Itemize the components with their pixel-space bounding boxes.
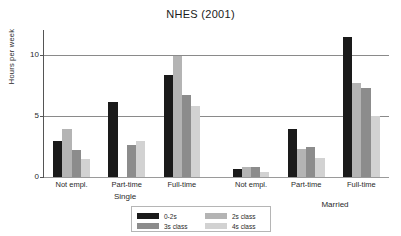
legend-swatch <box>205 223 227 229</box>
y-tick-mark-5 <box>40 116 44 117</box>
bar <box>352 83 361 177</box>
group-label-single: Single <box>90 192 160 201</box>
legend-entry[interactable]: 4s class <box>205 222 255 230</box>
legend-swatch <box>137 223 159 229</box>
bar <box>72 150 81 177</box>
legend-label: 3s class <box>164 223 187 230</box>
chart-title: NHES (2001) <box>0 8 401 20</box>
bar <box>164 75 173 177</box>
legend-entry[interactable]: 3s class <box>137 222 187 230</box>
plot-area <box>44 30 389 177</box>
gridline-y-5 <box>44 116 389 117</box>
bar <box>343 37 352 177</box>
bar <box>251 167 260 177</box>
plot-inner <box>44 30 389 177</box>
legend-label: 0-2s <box>164 213 177 220</box>
bar <box>306 147 315 177</box>
bar <box>297 149 306 177</box>
x-tick-label: Part-time <box>99 180 154 189</box>
bar <box>361 88 370 177</box>
bar <box>136 141 145 177</box>
legend-entry[interactable]: 2s class <box>205 212 255 220</box>
bar <box>371 116 380 177</box>
bar <box>108 102 117 177</box>
legend-label: 2s class <box>232 213 255 220</box>
bar <box>81 159 90 177</box>
x-tick-label: Full-time <box>334 180 389 189</box>
x-tick-label: Not empl. <box>44 180 99 189</box>
bar <box>191 106 200 177</box>
x-axis-line <box>44 177 389 178</box>
bar <box>62 129 71 177</box>
gridline-y-10 <box>44 55 389 56</box>
bar <box>242 167 251 177</box>
bar <box>182 95 191 177</box>
legend-entry[interactable]: 0-2s <box>137 212 177 220</box>
y-tick-label-10: 10 <box>26 50 39 59</box>
legend-swatch <box>205 213 227 219</box>
legend-label: 4s class <box>232 223 255 230</box>
x-tick-label: Full-time <box>154 180 209 189</box>
x-tick-label: Not empl. <box>224 180 279 189</box>
y-tick-label-5: 5 <box>26 111 39 120</box>
x-tick-label: Part-time <box>279 180 334 189</box>
y-tick-mark-10 <box>40 55 44 56</box>
chart-legend: 0-2s3s class2s class4s class <box>131 206 271 232</box>
bar <box>173 56 182 177</box>
legend-swatch <box>137 213 159 219</box>
bar <box>53 141 62 177</box>
y-axis-title: Hours per week <box>7 2 16 112</box>
bar <box>288 129 297 177</box>
chart-figure: NHES (2001) Hours per week Single Marrie… <box>0 0 401 236</box>
group-label-married: Married <box>300 200 370 209</box>
bar <box>315 158 324 177</box>
bar <box>127 145 136 177</box>
y-tick-label-0: 0 <box>26 172 39 181</box>
bar <box>233 169 242 177</box>
